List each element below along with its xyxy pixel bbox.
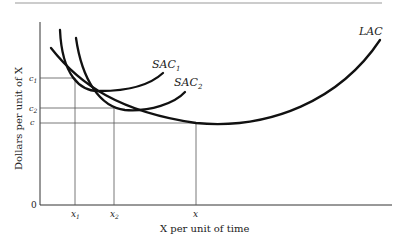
- x-tick-label: x: [193, 209, 198, 219]
- axes: [40, 22, 392, 205]
- sac2-label: SAC2: [174, 76, 203, 91]
- y-axis-title: Dollars per unit of X: [13, 66, 24, 170]
- origin-label: 0: [31, 200, 37, 210]
- curves: [51, 30, 380, 124]
- sac2-curve: [76, 38, 185, 110]
- cost-curve-diagram: SAC1 SAC2 LAC c1 c2 c 0 x1 x2 x X per un…: [0, 0, 394, 241]
- c-tick-label: c: [30, 118, 35, 127]
- lac-curve: [51, 40, 380, 124]
- c2-tick-label: c2: [29, 104, 37, 114]
- sac1-label: SAC1: [152, 58, 180, 73]
- c1-tick-label: c1: [29, 74, 37, 84]
- lac-label: LAC: [358, 25, 383, 38]
- x-axis-title: X per unit of time: [160, 223, 249, 234]
- x2-tick-label: x2: [110, 209, 119, 220]
- x1-tick-label: x1: [71, 209, 80, 220]
- guide-lines: [40, 78, 196, 205]
